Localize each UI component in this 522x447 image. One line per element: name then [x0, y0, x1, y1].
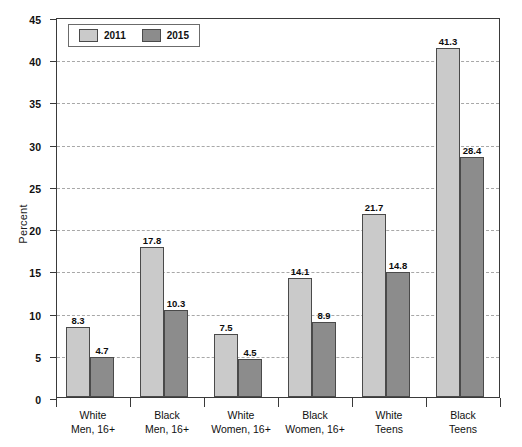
y-axis-tick: 5	[50, 357, 57, 358]
y-axis-title-text: Percent	[17, 204, 29, 243]
bar-value-label: 4.7	[95, 345, 108, 356]
x-axis-category-label-1: BlackMen, 16+	[130, 408, 204, 436]
y-axis-tick-label: 35	[29, 98, 41, 110]
x-axis-category-label-2: WhiteWomen, 16+	[204, 408, 278, 436]
bar-value-label: 10.3	[167, 298, 186, 309]
gridline	[57, 61, 499, 62]
category-label-line: Teens	[352, 422, 426, 436]
bar-value-label: 41.3	[439, 36, 458, 47]
category-label-line: White	[204, 408, 278, 422]
y-axis-tick-label: 5	[35, 352, 41, 364]
category-label-line: Black	[278, 408, 352, 422]
legend-swatch-2015	[142, 29, 161, 42]
gridline	[57, 315, 499, 316]
x-axis-category-label-5: BlackTeens	[426, 408, 500, 436]
gridline	[57, 188, 499, 189]
y-axis-tick: 25	[50, 188, 57, 189]
category-label-line: White	[352, 408, 426, 422]
bar-value-label: 7.5	[219, 322, 232, 333]
y-axis-tick: 30	[50, 146, 57, 147]
bar-value-label: 14.1	[291, 266, 310, 277]
bar-value-label: 14.8	[389, 260, 408, 271]
legend-label-2011: 2011	[104, 30, 126, 41]
category-label-line: Men, 16+	[56, 422, 130, 436]
bar-2011-2: 7.5	[214, 334, 238, 397]
bar-2011-5: 41.3	[436, 48, 460, 397]
category-label-line: Women, 16+	[278, 422, 352, 436]
y-axis-tick-label: 40	[29, 56, 41, 68]
bar-chart-figure: Percent 0510152025303540458.317.87.514.1…	[0, 0, 522, 447]
x-axis-tick	[204, 398, 205, 407]
bar-2015-3: 8.9	[312, 322, 336, 397]
bar-2011-3: 14.1	[288, 278, 312, 397]
legend-item-2015: 2015	[142, 29, 189, 42]
bar-2011-0: 8.3	[66, 327, 90, 397]
y-axis-tick-label: 15	[29, 267, 41, 279]
chart-legend: 2011 2015	[68, 24, 200, 47]
x-axis-tick	[426, 398, 427, 407]
plot-area: 0510152025303540458.317.87.514.121.741.3…	[56, 18, 500, 398]
bar-value-label: 4.5	[243, 347, 256, 358]
bar-2015-2: 4.5	[238, 359, 262, 397]
gridline	[57, 230, 499, 231]
bar-2015-1: 10.3	[164, 310, 188, 397]
bar-2015-4: 14.8	[386, 272, 410, 397]
bar-2011-1: 17.8	[140, 247, 164, 397]
bar-value-label: 21.7	[365, 202, 384, 213]
bar-value-label: 28.4	[463, 145, 482, 156]
gridline	[57, 357, 499, 358]
legend-swatch-2011	[79, 29, 98, 42]
y-axis-tick: 10	[50, 315, 57, 316]
bar-2011-4: 21.7	[362, 214, 386, 397]
gridline	[57, 103, 499, 104]
category-label-line: Black	[426, 408, 500, 422]
category-label-line: Teens	[426, 422, 500, 436]
gridline	[57, 146, 499, 147]
x-axis-tick	[278, 398, 279, 407]
y-axis-tick: 15	[50, 272, 57, 273]
y-axis-tick-label: 30	[29, 141, 41, 153]
y-axis-tick-label: 10	[29, 310, 41, 322]
bar-value-label: 8.9	[317, 310, 330, 321]
category-label-line: Black	[130, 408, 204, 422]
y-axis-tick-label: 20	[29, 225, 41, 237]
y-axis-tick-label: 45	[29, 14, 41, 26]
y-axis-tick: 45	[50, 19, 57, 20]
category-label-line: Women, 16+	[204, 422, 278, 436]
x-axis-tick	[56, 398, 57, 407]
category-label-line: Men, 16+	[130, 422, 204, 436]
x-axis-tick	[500, 398, 501, 407]
y-axis-tick-label: 0	[35, 394, 41, 406]
gridline	[57, 272, 499, 273]
bar-2015-0: 4.7	[90, 357, 114, 397]
x-axis-tick	[352, 398, 353, 407]
bar-2015-5: 28.4	[460, 157, 484, 397]
x-axis-category-label-0: WhiteMen, 16+	[56, 408, 130, 436]
x-axis-category-label-3: BlackWomen, 16+	[278, 408, 352, 436]
y-axis-tick: 35	[50, 103, 57, 104]
category-label-line: White	[56, 408, 130, 422]
bar-value-label: 17.8	[143, 235, 162, 246]
x-axis-category-label-4: WhiteTeens	[352, 408, 426, 436]
y-axis-tick-label: 25	[29, 183, 41, 195]
bar-value-label: 8.3	[71, 315, 84, 326]
y-axis-tick: 40	[50, 61, 57, 62]
legend-item-2011: 2011	[79, 29, 126, 42]
y-axis-tick: 20	[50, 230, 57, 231]
legend-label-2015: 2015	[167, 30, 189, 41]
x-axis-tick	[130, 398, 131, 407]
